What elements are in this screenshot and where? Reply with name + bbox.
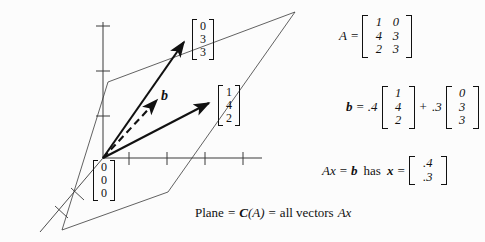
matrix-row: 2 3 [370,43,404,57]
bracket-right [473,86,479,129]
vector-row: 2 [390,114,407,128]
solution-rhs: b [351,163,358,179]
matrix-cell: 3 [387,30,404,44]
vector-row: .4 [417,157,439,171]
caption-ax: Ax [338,205,352,221]
vector-cells: 0 0 0 [98,160,110,201]
vector-row: 1 [390,87,407,101]
vector-cell: 3 [454,114,471,128]
matrix-cells: 1 0 4 3 2 3 [368,15,406,58]
matrix-a-equals: = [351,28,358,44]
vector-cell: 0 [99,161,109,174]
vector-cell: .4 [417,157,439,171]
caption-plane-word: Plane [195,205,224,221]
vector-b-term-2: 0 3 3 [446,85,479,130]
vector-cell: .3 [417,171,439,185]
solution-x-variable: x [387,163,394,179]
vector-cell: 4 [390,101,407,115]
vector-row: 4 [390,101,407,115]
vector-b-coefficient-2: .3 [432,99,442,115]
vector-row: 3 [198,46,208,59]
bracket-right [406,15,412,58]
vector-cell: 3 [198,46,208,59]
matrix-a-lhs: A [339,28,347,44]
matrix-cell: 3 [387,43,404,57]
vector-arrow-b [103,100,157,158]
equation-solution: Ax = b has x = .4 .3 [322,155,447,186]
vector-cells: 0 3 3 [452,86,473,129]
matrix-cell: 2 [370,43,387,57]
caption-column-space-arg: (A) [248,205,265,221]
equation-matrix-a: A = 1 0 4 3 2 3 [339,14,412,59]
vector-cell: 4 [224,99,234,112]
bracket-right [110,160,115,201]
equation-vector-b: b = .4 1 4 2 + .3 0 3 3 [346,85,479,130]
vector-row: 0 [198,20,208,33]
vector-label-b: b [161,88,168,104]
vector-cell: 2 [390,114,407,128]
solution-lhs: Ax [322,163,336,179]
vector-row: 2 [224,112,234,125]
figure-caption: Plane = C (A) = all vectors Ax [195,205,351,221]
vector-row: 0 [99,187,109,200]
matrix-cell: 4 [370,30,387,44]
vector-row: .3 [417,171,439,185]
matrix-cell: 0 [387,16,404,30]
vector-row: 3 [454,101,471,115]
bracket-right [441,156,447,185]
origin-vector-label: 0 0 0 [93,159,115,202]
bracket-right [235,85,240,126]
matrix-a-body: 1 0 4 3 2 3 [362,14,412,59]
bracket-right [409,86,415,129]
vector-cell: 0 [198,20,208,33]
matrix-row: 1 0 [370,16,404,30]
solution-has-word: has [364,163,381,179]
vector-row: 0 [99,174,109,187]
vector-row: 0 [99,161,109,174]
vector-cell: 0 [454,87,471,101]
matrix-row: 4 3 [370,30,404,44]
vector-b-term-1: 1 4 2 [382,85,415,130]
vector-b-coefficient-1: .4 [368,99,378,115]
vector-cells: 0 3 3 [197,19,209,60]
vector-cell: 1 [224,86,234,99]
solution-equals: = [340,163,347,179]
caption-equals-1: = [228,205,235,221]
vector-arrow-column-2 [103,42,184,158]
vector-arrow-column-1 [103,103,209,158]
vector-b-lhs: b [346,99,353,115]
matrix-cell: 1 [370,16,387,30]
vector-cells: 1 4 2 [223,85,235,126]
vector-row: 0 [454,87,471,101]
bracket-right [209,19,214,60]
vector-cell: 1 [390,87,407,101]
vector-cell: 3 [454,101,471,115]
caption-equals-2: = [269,205,276,221]
vector-cell: 2 [224,112,234,125]
vector-cell: 0 [99,174,109,187]
caption-all-vectors: all vectors [280,205,334,221]
column-2-vector-label: 0 3 3 [192,18,214,61]
solution-equals-2: = [397,163,404,179]
vector-row: 4 [224,99,234,112]
vector-cells: 1 4 2 [388,86,409,129]
vector-row: 3 [198,33,208,46]
vector-row: 1 [224,86,234,99]
vector-b-equals: = [357,99,364,115]
vector-cell: 0 [99,187,109,200]
vector-b-plus: + [420,99,427,115]
vector-cell: 3 [198,33,208,46]
column-1-vector-label: 1 4 2 [218,84,240,127]
vector-row: 3 [454,114,471,128]
vector-cells: .4 .3 [415,156,441,185]
solution-x-vector: .4 .3 [409,155,447,186]
caption-column-space-symbol: C [239,205,248,221]
